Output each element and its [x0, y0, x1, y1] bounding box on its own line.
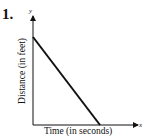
x-axis-label: Time (in seconds) [44, 126, 112, 136]
y-axis-letter: y [29, 7, 32, 15]
y-axis-label: Distance (in feet) [17, 21, 27, 121]
x-axis-letter: x [139, 121, 142, 129]
data-line [33, 37, 100, 125]
